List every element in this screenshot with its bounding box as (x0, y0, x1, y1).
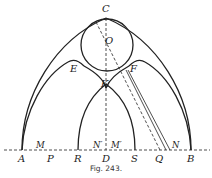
label-M-prime: M′ (111, 141, 122, 150)
outer-arch-left (22, 18, 106, 150)
figure-caption: Fig. 243. (0, 164, 212, 173)
inner-arch-right (129, 60, 191, 150)
geometry-diagram (0, 0, 212, 178)
label-Q: Q (155, 154, 163, 164)
label-P: P (47, 154, 54, 164)
label-S: S (131, 154, 138, 164)
label-B: B (187, 154, 194, 164)
label-K: K (101, 79, 108, 89)
label-C: C (102, 4, 110, 14)
diagonal-3 (126, 70, 166, 150)
label-A: A (18, 154, 25, 164)
label-N: N (172, 141, 179, 150)
outer-arch-right (106, 18, 191, 150)
label-N-prime: N′ (93, 141, 102, 150)
label-F: F (130, 64, 137, 74)
label-D: D (102, 154, 110, 164)
label-R: R (74, 154, 82, 164)
label-E: E (70, 64, 77, 74)
label-M: M (36, 141, 45, 150)
label-O: O (105, 36, 113, 46)
